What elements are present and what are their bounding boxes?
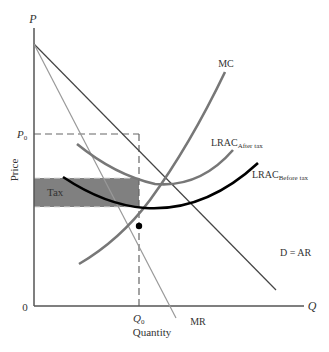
mc-mr-intersection-dot: [136, 223, 142, 229]
mc-label: MC: [218, 58, 234, 69]
tax-label: Tax: [47, 186, 64, 198]
y-axis-symbol: P: [28, 12, 37, 26]
x-axis-symbol: Q: [308, 299, 317, 313]
monopoly-diagram: P Q 0 Price Quantity P0 Q0 Tax MC LRACAf…: [0, 0, 329, 352]
x-axis-title: Quantity: [133, 326, 172, 338]
lrac-after-tax-label: LRACAfter tax: [211, 137, 263, 150]
y-axis-title: Price: [8, 159, 20, 182]
mr-label: MR: [190, 316, 206, 327]
p0-label: P0: [16, 128, 28, 142]
demand-label: D = AR: [280, 247, 312, 258]
q0-label: Q0: [133, 312, 145, 326]
origin-label: 0: [22, 301, 28, 313]
guide-lines: [34, 134, 139, 306]
demand-curve: [34, 44, 276, 290]
mc-curve: [79, 72, 225, 264]
lrac-before-tax-label: LRACBefore tax: [252, 169, 309, 182]
